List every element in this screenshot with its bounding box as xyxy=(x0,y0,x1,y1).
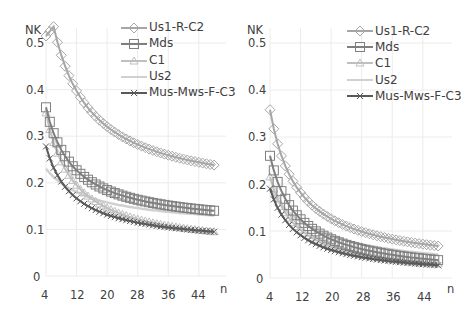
left-x-tick: 36 xyxy=(161,288,176,302)
right-y-tick: 0 xyxy=(256,272,263,286)
left-chart: NK 0.5 0.4 0.3 0.2 0.1 0 4 12 20 28 36 4… xyxy=(25,20,236,302)
left-chart-grid xyxy=(46,28,226,276)
left-x-tick: 28 xyxy=(130,288,145,302)
series-us2 xyxy=(270,189,438,255)
legend-label-mus-mws-f-c3: Mus-Mws-F-C3 xyxy=(375,89,462,103)
right-y-tick: 0.4 xyxy=(248,83,266,97)
left-x-axis-label: n xyxy=(220,282,227,296)
right-chart-series xyxy=(265,105,443,269)
left-y-tick: 0.5 xyxy=(26,36,44,50)
left-y-tick: 0.1 xyxy=(26,223,44,237)
legend-label-us1-r-c2: Us1-R-C2 xyxy=(149,20,204,34)
series-c1 xyxy=(42,109,218,235)
left-chart-series xyxy=(41,22,219,235)
right-x-axis-label: n xyxy=(447,282,454,296)
left-x-ticks: 4 12 20 28 36 44 n xyxy=(41,282,227,302)
right-x-ticks: 4 12 20 28 36 44 n xyxy=(266,282,454,304)
legend-label-mds: Mds xyxy=(375,40,399,54)
legend-label-us2: Us2 xyxy=(375,73,398,87)
right-x-tick: 4 xyxy=(266,290,273,304)
right-y-ticks: 0.5 0.4 0.3 0.2 0.1 0 xyxy=(248,36,266,286)
left-x-tick: 12 xyxy=(70,288,85,302)
right-x-tick: 28 xyxy=(356,290,371,304)
left-y-tick: 0 xyxy=(33,270,40,284)
legend-label-c1: C1 xyxy=(375,56,391,70)
legend-label-c1: C1 xyxy=(149,53,165,67)
legend-label-us1-r-c2: Us1-R-C2 xyxy=(375,24,430,38)
right-x-tick: 44 xyxy=(417,290,432,304)
right-x-tick: 12 xyxy=(295,290,310,304)
left-y-tick: 0.3 xyxy=(26,129,44,143)
right-chart-legend: Us1-R-C2 Mds C1 Us2 Mus-Mws-F-C3 xyxy=(347,24,462,103)
right-y-tick: 0.3 xyxy=(248,130,266,144)
right-y-tick: 0.5 xyxy=(248,36,266,50)
left-x-tick: 44 xyxy=(191,288,206,302)
right-x-tick: 36 xyxy=(386,290,401,304)
left-y-tick: 0.4 xyxy=(26,83,44,97)
legend-label-mus-mws-f-c3: Mus-Mws-F-C3 xyxy=(149,85,236,99)
left-x-tick: 4 xyxy=(41,288,48,302)
right-chart: NK 0.5 0.4 0.3 0.2 0.1 0 4 12 20 28 36 4… xyxy=(247,23,462,304)
charts-canvas: NK 0.5 0.4 0.3 0.2 0.1 0 4 12 20 28 36 4… xyxy=(0,0,475,316)
left-y-axis-label: NK xyxy=(25,23,42,37)
left-y-tick: 0.2 xyxy=(26,176,44,190)
legend-label-us2: Us2 xyxy=(149,69,172,83)
left-chart-legend: Us1-R-C2 Mds C1 Us2 Mus-Mws-F-C3 xyxy=(121,20,236,99)
left-x-tick: 20 xyxy=(100,288,115,302)
right-x-tick: 20 xyxy=(325,290,340,304)
right-y-axis-label: NK xyxy=(247,23,264,37)
right-y-tick: 0.1 xyxy=(248,225,266,239)
right-y-tick: 0.2 xyxy=(248,178,266,192)
left-y-ticks: 0.5 0.4 0.3 0.2 0.1 0 xyxy=(26,36,44,284)
legend-label-mds: Mds xyxy=(149,36,173,50)
